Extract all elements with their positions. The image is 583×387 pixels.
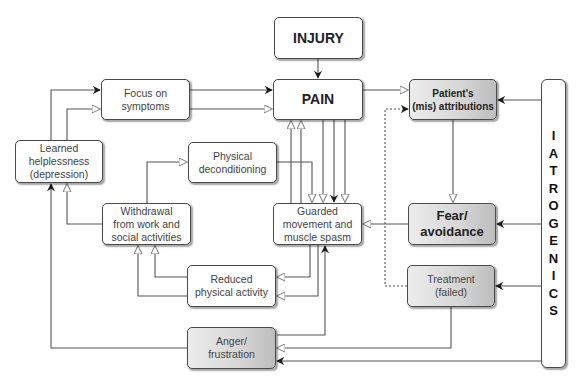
iatrogenics-letter: N <box>549 250 558 268</box>
node-fear-avoidance: Fear/ avoidance <box>408 203 496 245</box>
node-injury: INJURY <box>274 17 363 59</box>
node-focus-label: Focus on symptoms <box>122 87 170 113</box>
iatrogenics-letter: O <box>548 197 558 215</box>
iatrogenics-letter: T <box>550 162 558 180</box>
node-reduced-physical-activity: Reduced physical activity <box>187 265 276 307</box>
iatrogenics-letter: A <box>549 145 558 163</box>
node-treatment-label: Treatment (failed) <box>427 273 474 299</box>
node-learned-helplessness: Learned helplessness (depression) <box>15 140 103 183</box>
node-attrib-label: Patient's (mis) attributions <box>412 87 494 113</box>
node-focus-on-symptoms: Focus on symptoms <box>101 79 190 120</box>
iatrogenics-letter: I <box>552 267 556 285</box>
iatrogenics-letter: G <box>548 215 558 233</box>
node-reduced-label: Reduced physical activity <box>195 273 268 299</box>
node-anger-frustration: Anger/ frustration <box>187 327 276 369</box>
node-physical-deconditioning: Physical deconditioning <box>188 142 277 183</box>
iatrogenics-letter: E <box>549 232 558 250</box>
node-anger-label: Anger/ frustration <box>208 335 255 361</box>
node-patient-attributions: Patient's (mis) attributions <box>409 79 497 120</box>
node-iatrogenics: I A T R O G E N I C S <box>541 79 566 368</box>
iatrogenics-letter: I <box>552 127 556 145</box>
node-decond-label: Physical deconditioning <box>199 150 267 176</box>
node-pain-label: PAIN <box>302 91 334 108</box>
node-pain: PAIN <box>273 79 363 120</box>
node-guarded-movement: Guarded movement and muscle spasm <box>273 203 362 245</box>
node-fear-label: Fear/ avoidance <box>420 208 484 240</box>
node-treatment-failed: Treatment (failed) <box>407 265 495 307</box>
node-guarded-label: Guarded movement and muscle spasm <box>283 205 352 244</box>
node-helpless-label: Learned helplessness (depression) <box>29 142 90 181</box>
node-withdrawal: Withdrawal from work and social activiti… <box>102 203 191 245</box>
node-injury-label: INJURY <box>293 30 344 47</box>
iatrogenics-letter: R <box>549 180 558 198</box>
iatrogenics-letter: C <box>549 285 558 303</box>
iatrogenics-letter: S <box>549 302 558 320</box>
node-withdrawal-label: Withdrawal from work and social activiti… <box>111 205 181 244</box>
